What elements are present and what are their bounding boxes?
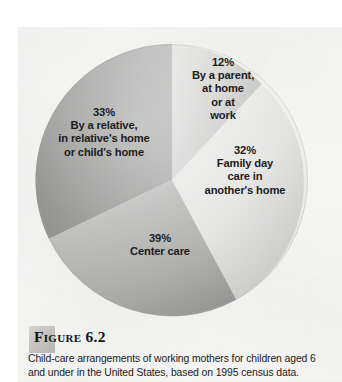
pie-label-center-care-percent: 39% xyxy=(101,232,219,245)
figure-caption-block: Figure 6.2 Child-care arrangements of wo… xyxy=(18,326,342,382)
pie-label-family-day-line2: care in xyxy=(186,170,304,183)
pie-label-family-day-line3: another's home xyxy=(186,184,304,197)
pie-label-parent-line2: at home xyxy=(175,82,271,95)
pie-label-parent-line1: By a parent, xyxy=(175,69,271,82)
figure-number: Figure 6.2 xyxy=(34,328,106,346)
pie-label-parent-percent: 12% xyxy=(175,56,271,69)
pie-label-relative-line1: By a relative, xyxy=(38,119,170,132)
pie-label-relative-percent: 33% xyxy=(38,106,170,119)
pie-label-parent: 12% By a parent, at home or at work xyxy=(175,56,271,122)
pie-label-center-care-line1: Center care xyxy=(101,245,219,258)
pie-label-relative-line3: or child's home xyxy=(38,146,170,159)
pie-label-family-day-percent: 32% xyxy=(186,144,304,157)
pie-label-parent-line4: work xyxy=(175,109,271,122)
pie-label-relative: 33% By a relative, in relative's home or… xyxy=(38,106,170,159)
pie-label-family-day: 32% Family day care in another's home xyxy=(186,144,304,197)
figure-caption-text: Child-care arrangements of working mothe… xyxy=(28,352,328,379)
pie-label-relative-line2: in relative's home xyxy=(38,132,170,145)
pie-label-parent-line3: or at xyxy=(175,96,271,109)
pie-label-family-day-line1: Family day xyxy=(186,157,304,170)
pie-chart: 12% By a parent, at home or at work 33% … xyxy=(0,0,342,330)
pie-label-center-care: 39% Center care xyxy=(101,232,219,258)
